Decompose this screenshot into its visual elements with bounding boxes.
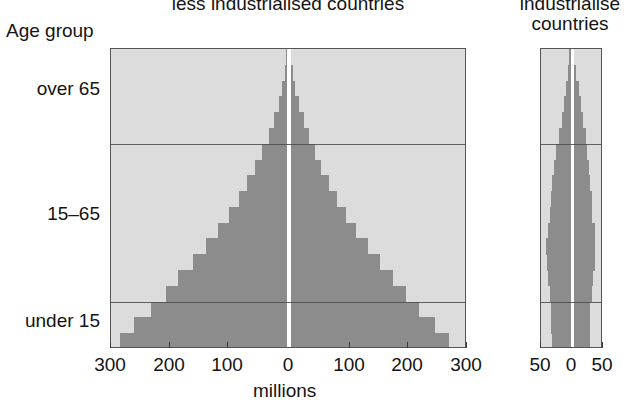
pyramid-bar-male xyxy=(562,112,571,128)
pyramid-bar-male xyxy=(166,286,287,302)
pyramid-bar-female xyxy=(289,207,346,223)
pyramid-bar-male xyxy=(279,96,287,112)
pyramid-bar-male xyxy=(178,270,287,286)
pyramid-bar-male xyxy=(551,317,570,333)
small-plot-area xyxy=(540,48,602,348)
pyramid-bar-female xyxy=(289,317,435,333)
population-pyramid-figure: less industrialised countries industrial… xyxy=(0,0,624,407)
x-axis-tick-label: 200 xyxy=(153,354,185,375)
pyramid-bar-female xyxy=(289,128,309,144)
pyramid-bar-male xyxy=(559,128,571,144)
pyramid-bar-male xyxy=(546,238,570,254)
millions-axis-label: millions xyxy=(253,380,316,401)
pyramid-bar-male xyxy=(554,160,571,176)
pyramid-bar-male xyxy=(120,333,287,347)
pyramid-bar-male xyxy=(218,223,287,239)
pyramid-bar-male xyxy=(239,191,287,207)
pyramid-bar-male xyxy=(134,317,287,333)
pyramid-bar-male xyxy=(550,207,571,223)
age-group-label-under-15: under 15 xyxy=(4,310,100,331)
pyramid-bar-female xyxy=(572,270,594,286)
pyramid-bar-male xyxy=(206,238,287,254)
pyramid-bar-female xyxy=(289,302,419,318)
pyramid-bar-female xyxy=(572,160,590,176)
x-axis-tick xyxy=(169,342,170,348)
pyramid-bar-female xyxy=(572,317,590,333)
pyramid-bar-female xyxy=(289,223,356,239)
x-axis-tick-label: 50 xyxy=(591,354,612,375)
pyramid-bar-female xyxy=(289,270,393,286)
pyramid-bar-female xyxy=(572,238,596,254)
pyramid-bar-female xyxy=(572,223,595,239)
pyramid-bar-male xyxy=(548,270,570,286)
small-chart-title-line: industrialise xyxy=(484,0,624,14)
age-boundary-gridline-15 xyxy=(111,302,465,303)
pyramid-bar-male xyxy=(262,144,287,160)
x-axis-tick xyxy=(540,342,541,348)
pyramid-bar-male xyxy=(193,254,287,270)
x-axis-tick-label: 300 xyxy=(94,354,126,375)
pyramid-bar-female xyxy=(572,254,595,270)
pyramid-bar-female xyxy=(572,175,591,191)
pyramid-bar-female xyxy=(572,144,588,160)
x-axis-tick xyxy=(227,342,228,348)
x-axis-tick xyxy=(602,342,603,348)
x-axis-tick-label: 300 xyxy=(450,354,482,375)
pyramid-bar-male xyxy=(151,302,287,318)
x-axis-tick-label: 100 xyxy=(211,354,243,375)
x-axis-tick-label: 0 xyxy=(283,354,294,375)
x-axis-tick xyxy=(110,342,111,348)
pyramid-bar-male xyxy=(255,160,287,176)
pyramid-bar-male xyxy=(556,144,570,160)
pyramid-bar-male xyxy=(548,223,571,239)
x-axis-tick-label: 200 xyxy=(391,354,423,375)
pyramid-bar-female xyxy=(289,144,315,160)
pyramid-bar-female xyxy=(289,333,449,347)
small-chart-title: industrialisecountries xyxy=(484,0,624,34)
pyramid-bar-female xyxy=(572,128,586,144)
age-boundary-gridline-15 xyxy=(541,302,601,303)
pyramid-bar-female xyxy=(572,302,591,318)
pyramid-bar-female xyxy=(289,238,368,254)
x-axis-tick-label: 100 xyxy=(333,354,365,375)
age-boundary-gridline-65 xyxy=(111,144,465,145)
pyramid-bar-female xyxy=(572,191,592,207)
pyramid-bar-male xyxy=(551,191,570,207)
pyramid-bar-male xyxy=(269,128,287,144)
age-group-axis-label: Age group xyxy=(6,20,94,41)
x-axis-tick-label: 0 xyxy=(566,354,577,375)
pyramid-bar-male xyxy=(552,333,571,347)
pyramid-bar-male xyxy=(552,175,570,191)
small-chart-title-line: countries xyxy=(484,14,624,34)
age-group-label-15-65: 15–65 xyxy=(4,203,100,224)
pyramid-bar-female xyxy=(572,207,593,223)
pyramid-bar-female xyxy=(572,333,590,347)
pyramid-bar-male xyxy=(550,286,571,302)
pyramid-bar-female xyxy=(572,286,592,302)
pyramid-bar-female xyxy=(289,254,380,270)
x-axis-tick xyxy=(349,342,350,348)
pyramid-bar-male xyxy=(229,207,287,223)
pyramid-bar-female xyxy=(289,160,321,176)
pyramid-bar-male xyxy=(247,175,287,191)
x-axis-tick xyxy=(407,342,408,348)
pyramid-bar-male xyxy=(547,254,571,270)
main-plot-area: male female xyxy=(110,48,466,348)
pyramid-bar-male xyxy=(551,302,570,318)
pyramid-bar-female xyxy=(289,191,337,207)
x-axis-tick xyxy=(466,342,467,348)
age-boundary-gridline-65 xyxy=(541,144,601,145)
main-chart-title: less industrialised countries xyxy=(110,0,466,14)
pyramid-bar-male xyxy=(274,112,287,128)
x-axis-tick-label: 50 xyxy=(529,354,550,375)
pyramid-bar-female xyxy=(289,175,329,191)
pyramid-bar-female xyxy=(289,112,304,128)
pyramid-bar-female xyxy=(289,286,406,302)
age-group-label-over-65: over 65 xyxy=(4,78,100,99)
